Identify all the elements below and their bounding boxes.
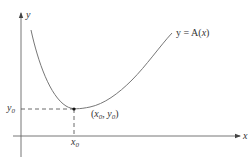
curve-a-of-x [31,30,172,109]
minimum-point [72,107,75,110]
y0-label: y0 [6,102,15,115]
minimum-point-label: (x0, y0) [91,108,119,121]
curve-label: y = A(x) [176,27,209,39]
y-axis-label: y [25,9,31,20]
function-graph: y x y = A(x) (x0, y0) y0 x0 [0,0,251,159]
x-axis-label: x [242,130,248,141]
x0-label: x0 [70,136,79,149]
